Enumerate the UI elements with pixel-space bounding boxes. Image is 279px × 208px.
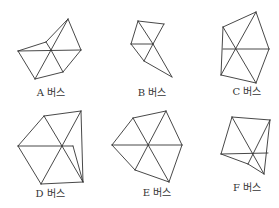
edge-bottom_right-bottom_left [35, 72, 63, 79]
label-bus-c: C 버스 [233, 86, 262, 97]
edge-top_left-bottom_right [133, 118, 169, 182]
edge-apex-right [68, 19, 81, 50]
edge-left-bottom_mid [221, 154, 248, 164]
edge-bottom_left-bottom_right [41, 182, 83, 184]
edge-bottom_left-upper_left [221, 27, 223, 75]
edge-center-bottom_right [51, 50, 63, 72]
shape-bus-b [131, 21, 172, 77]
edge-top_right-right [166, 111, 182, 145]
bus-figure: A 버스 B 버스 C 버스 D 버스 E 버스 F 버스 [0, 0, 279, 208]
edge-center-bottom_left [35, 50, 51, 79]
edge-left-right [221, 153, 268, 154]
edge-upper-center [46, 42, 51, 50]
edge-top-left [18, 116, 44, 146]
edge-top-bottom_left [221, 12, 256, 75]
shape-bus-a [18, 19, 81, 79]
edge-top_left-top_right [232, 117, 270, 120]
edge-left-bottom_left [18, 146, 41, 184]
edge-center-bottom_left [41, 146, 62, 184]
edge-left-bottom [131, 44, 144, 61]
edges-layer [18, 12, 270, 184]
edge-right-bottom_right [169, 145, 182, 182]
edge-left-upper [18, 42, 46, 51]
shape-bus-c [221, 12, 269, 83]
edge-top_left-left [131, 21, 138, 44]
edge-top-center [44, 116, 62, 146]
edge-left-top_left [112, 118, 133, 145]
edge-top_right-bottom_right [81, 111, 83, 182]
edge-top-top_right [44, 111, 81, 116]
edge-bottom-bottom_left [221, 75, 256, 83]
edge-bottom_left-left [18, 51, 35, 79]
shape-bus-e [112, 111, 182, 182]
edge-top_right-tip [264, 120, 270, 174]
edge-top_right-center [62, 111, 81, 146]
edge-left-right [18, 50, 81, 51]
edge-right_mid-bottom_right [73, 146, 83, 182]
edge-upper_left-bottom [223, 27, 256, 83]
shape-bus-d [18, 111, 83, 184]
edge-top_left-top_right [133, 111, 166, 118]
edge-top_left-tip [232, 117, 264, 174]
edge-upper_left-top [223, 12, 256, 27]
edge-top_right-bottom_left [135, 111, 166, 170]
edge-top_left-top_right [138, 21, 164, 24]
edge-top_left-left [221, 117, 232, 154]
label-bus-e: E 버스 [143, 187, 171, 198]
label-bus-f: F 버스 [233, 182, 261, 193]
label-bus-d: D 버스 [35, 188, 64, 199]
edge-top_right-center [153, 24, 164, 44]
edge-top-right [256, 12, 269, 49]
edge-right-bottom_right [63, 50, 81, 72]
edge-center-bottom_right [62, 146, 83, 182]
edge-top_right-bottom_mid [248, 120, 270, 164]
edge-right-bottom [256, 49, 269, 83]
label-bus-a: A 버스 [36, 87, 65, 98]
edge-bottom_left-left [112, 145, 135, 170]
edge-top_left-center [138, 21, 153, 44]
edge-center-bottom [144, 44, 153, 61]
label-bus-b: B 버스 [138, 87, 167, 98]
shape-bus-f [221, 117, 270, 174]
edge-bottom_right-bottom_left [135, 170, 169, 182]
